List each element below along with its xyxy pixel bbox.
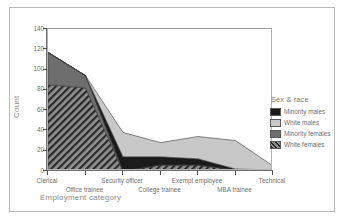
legend-item[interactable]: White males (270, 119, 344, 127)
y-axis-tick (43, 28, 47, 29)
legend-item[interactable]: Minority females (270, 130, 344, 138)
legend-item[interactable]: White females (270, 141, 344, 149)
x-axis-tick (160, 171, 161, 175)
stacked-area-series (48, 29, 272, 170)
legend-swatch-icon (270, 141, 281, 149)
y-axis-tick-label: 40 (8, 126, 44, 133)
y-axis-tick (43, 109, 47, 110)
x-axis-tick-label: Clerical (37, 177, 58, 185)
y-axis-tick (43, 150, 47, 151)
y-axis-tick-label: 0 (8, 167, 44, 174)
y-axis-tick-label: 140 (8, 25, 44, 32)
x-axis-tick-label: Security officer (101, 177, 143, 185)
x-axis-tick (272, 171, 273, 175)
x-axis-tick (235, 171, 236, 175)
x-axis-tick-label: MBA trainee (217, 186, 251, 194)
y-axis-tick (43, 129, 47, 130)
legend-swatch-icon (270, 130, 281, 138)
y-axis-tick-label: 120 (8, 45, 44, 52)
legend-item-label: White females (284, 141, 325, 149)
x-axis-tick (47, 171, 48, 175)
legend-title: Sex & race (271, 95, 344, 104)
x-axis-tick (197, 171, 198, 175)
x-axis-title: Employment category (40, 193, 121, 202)
legend-swatch-icon (270, 119, 281, 127)
chart-screenshot: 020406080100120140 ClericalOffice traine… (0, 0, 344, 221)
y-axis-tick-labels: 020406080100120140 (4, 0, 44, 221)
legend-item-label: White males (284, 119, 319, 127)
y-axis-tick-label: 100 (8, 65, 44, 72)
legend-swatch-icon (270, 108, 281, 116)
y-axis-tick-label: 80 (8, 85, 44, 92)
x-axis-tick-label: College trainee (138, 186, 180, 194)
x-axis-tick-label: Technical (259, 177, 285, 185)
legend-item-label: Minority females (284, 130, 331, 138)
x-axis-tick-label: Exempt employee (172, 177, 222, 185)
y-axis-title: Count (12, 96, 21, 118)
x-axis-tick (85, 171, 86, 175)
plot-area (47, 28, 272, 170)
legend-item[interactable]: Minority males (270, 108, 344, 116)
legend: Sex & race Minority malesWhite malesMino… (270, 95, 344, 152)
y-axis-tick-label: 20 (8, 146, 44, 153)
legend-item-label: Minority males (284, 108, 325, 116)
y-axis-tick (43, 89, 47, 90)
x-axis-tick (122, 171, 123, 175)
y-axis-tick (43, 48, 47, 49)
y-axis-tick (43, 69, 47, 70)
